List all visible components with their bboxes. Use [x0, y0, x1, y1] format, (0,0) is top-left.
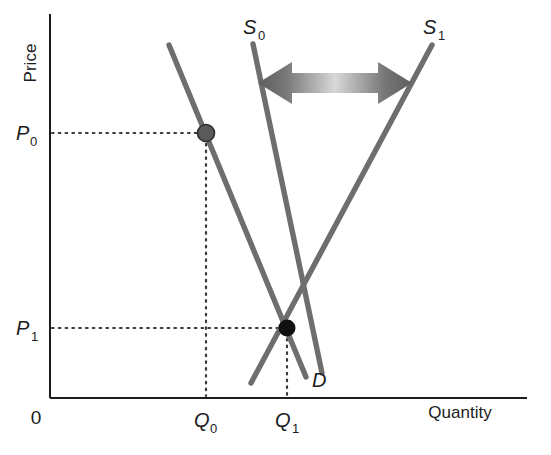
quantity-1-subscript: 1 [292, 421, 299, 436]
equilibrium-point-e0 [198, 125, 215, 142]
supply-shift-arrow [258, 62, 412, 104]
shift-arrow-shape [258, 62, 412, 104]
diagram-canvas: Price Quantity 0 P 0 P 1 Q 0 Q 1 S 0 S 1 [0, 0, 551, 455]
quantity-0-tick-label: Q 0 [194, 409, 217, 436]
price-0-tick-label: P 0 [16, 122, 37, 149]
x-axis-title: Quantity [428, 403, 492, 422]
supply-0-subscript: 0 [258, 28, 265, 43]
quantity-1-symbol: Q [275, 409, 291, 431]
quantity-1-tick-label: Q 1 [275, 409, 299, 436]
price-1-subscript: 1 [31, 329, 38, 344]
supply-0-curve-label: S 0 [243, 16, 265, 43]
price-1-tick-label: P 1 [16, 317, 38, 344]
origin-label: 0 [31, 407, 42, 428]
y-axis-title: Price [21, 44, 40, 83]
price-1-symbol: P [16, 317, 30, 339]
price-0-symbol: P [16, 122, 30, 144]
supply-0-symbol: S [243, 16, 257, 38]
quantity-0-subscript: 0 [210, 421, 217, 436]
guide-lines-group [52, 133, 287, 396]
equilibrium-point-e1 [279, 320, 296, 337]
demand-curve-label: D [312, 369, 326, 391]
supply-1-subscript: 1 [438, 28, 445, 43]
quantity-0-symbol: Q [194, 409, 210, 431]
supply-1-symbol: S [423, 16, 437, 38]
supply-curve-s1 [251, 45, 432, 383]
supply-demand-figure: Price Quantity 0 P 0 P 1 Q 0 Q 1 S 0 S 1 [0, 0, 551, 455]
supply-1-curve-label: S 1 [423, 16, 445, 43]
price-0-subscript: 0 [30, 134, 37, 149]
